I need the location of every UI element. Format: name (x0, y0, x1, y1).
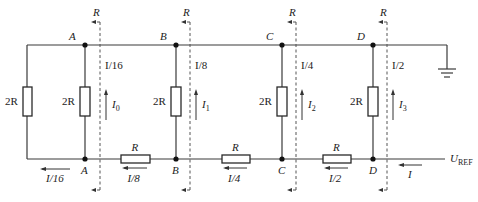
bottom-node-label: A (80, 164, 88, 176)
equivalent-arrowhead-top (181, 20, 186, 24)
r2r-ladder-diagram: 2R 2RI02RI12RI22RI3 RI/8RI/4RI/2I/16 RI/… (0, 0, 478, 202)
top-current-label: I/4 (301, 59, 314, 71)
top-node-label: B (160, 30, 167, 42)
top-current-label: I/8 (195, 59, 208, 71)
branch-resistor-label: 2R (62, 95, 76, 107)
ladder-current-label: I/2 (328, 172, 342, 184)
equivalent-resistance-label: R (182, 6, 190, 18)
branch-resistor-label: 2R (350, 95, 364, 107)
equivalent-resistance-label: R (288, 6, 296, 18)
equivalent-arrowhead-bottom (287, 188, 292, 192)
series-resistor-label: R (131, 141, 139, 153)
top-node-dot (173, 42, 178, 47)
series-resistor-r (222, 155, 250, 163)
bottom-node-dot (173, 156, 178, 161)
branch-resistor-2r (277, 87, 287, 116)
bottom-node-label: D (368, 164, 377, 176)
series-resistor-label: R (332, 141, 340, 153)
bottom-node-dot (370, 156, 375, 161)
equivalent-arrowhead-bottom (378, 188, 383, 192)
top-node-dot (82, 42, 87, 47)
branch-current-arrowhead (194, 89, 198, 95)
branch-resistor-2r (171, 87, 181, 116)
equivalent-arrowhead-top (287, 20, 292, 24)
top-node-dot (370, 42, 375, 47)
equivalent-arrowhead-bottom (181, 188, 186, 192)
equivalent-arrowhead-top (378, 20, 383, 24)
ladder-current-label: I/8 (127, 172, 141, 184)
equivalent-resistance-label: R (379, 6, 387, 18)
branch-resistor-label: 2R (153, 95, 167, 107)
branch-current-label: I2 (307, 98, 316, 113)
branch-current-label: I3 (398, 98, 407, 113)
branch-resistor-2r (368, 87, 378, 116)
branch-current-arrowhead (391, 89, 395, 95)
top-current-label: I/16 (105, 59, 123, 71)
input-current-arrowhead (398, 163, 404, 167)
bottom-node-dot (82, 156, 87, 161)
top-node-label: D (356, 30, 365, 42)
bottom-node-dot (279, 156, 284, 161)
ground-icon (438, 45, 456, 77)
equivalent-arrowhead-top (91, 20, 96, 24)
ladder-current-arrowhead (324, 166, 330, 170)
equivalent-arrowhead-bottom (91, 188, 96, 192)
branch-current-arrowhead (300, 89, 304, 95)
series-resistor-r (323, 155, 351, 163)
top-node-label: C (266, 30, 274, 42)
reference-voltage-label: UREF (450, 152, 473, 167)
branch-current-arrowhead (104, 89, 108, 95)
ladder-current-arrowhead (40, 167, 46, 171)
top-node-label: A (68, 30, 76, 42)
branch-current-label: I1 (201, 98, 210, 113)
branch-resistor-label: 2R (259, 95, 273, 107)
ladder-current-label: I/16 (45, 172, 64, 184)
series-resistor-label: R (231, 141, 239, 153)
ladder-current-arrowhead (223, 166, 229, 170)
terminating-resistor (23, 87, 32, 116)
bottom-node-label: B (172, 164, 179, 176)
series-resistor-r (121, 155, 150, 163)
ladder-current-arrowhead (122, 166, 128, 170)
input-current-label: I (407, 168, 413, 180)
terminating-resistor-label: 2R (5, 95, 19, 107)
ladder-current-label: I/4 (227, 172, 241, 184)
branch-resistor-2r (80, 87, 90, 116)
top-current-label: I/2 (392, 59, 404, 71)
top-node-dot (279, 42, 284, 47)
equivalent-resistance-label: R (92, 6, 100, 18)
bottom-node-label: C (278, 164, 286, 176)
branch-current-label: I0 (111, 98, 120, 113)
